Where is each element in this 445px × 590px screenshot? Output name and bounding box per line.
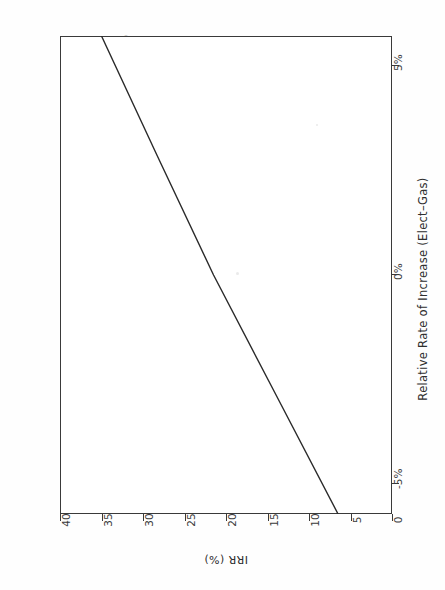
y-tick-label-30: 30 xyxy=(143,508,155,532)
y-axis-title: IRR (%) xyxy=(171,548,281,566)
scan-artifact xyxy=(316,124,318,126)
y-tick-label-10: 10 xyxy=(309,508,321,532)
y-tick-label-20: 20 xyxy=(226,508,238,532)
scan-artifact xyxy=(236,272,239,275)
x-axis-title: Relative Rate of Increase (Elect–Gas) xyxy=(416,159,436,419)
y-tick-label-35: 35 xyxy=(102,508,114,532)
y-tick-label-40: 40 xyxy=(60,508,72,532)
y-tick-label-15: 15 xyxy=(268,508,280,532)
plot-area xyxy=(60,36,392,514)
x-tick-label-5pct: 5% xyxy=(392,54,404,71)
figure-page: FIGURE 11-17 IRR VS. RELATIVE ELECTRIC &… xyxy=(0,0,445,590)
irr-data-line xyxy=(102,36,339,514)
x-tick-label-neg5pct: -5% xyxy=(392,469,404,489)
y-tick-label-25: 25 xyxy=(185,508,197,532)
y-tick-label-0: 0 xyxy=(392,508,404,532)
y-tick-label-5: 5 xyxy=(351,508,363,532)
x-tick-label-0pct: 0% xyxy=(392,263,404,280)
y-axis-tick-labels: 40 35 30 25 20 15 10 5 0 xyxy=(60,514,392,548)
